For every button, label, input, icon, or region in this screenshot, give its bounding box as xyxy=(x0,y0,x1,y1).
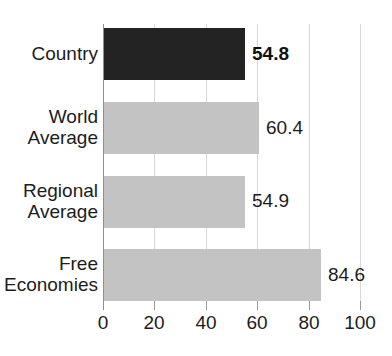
tick-label-100: 100 xyxy=(344,312,376,334)
tick-mark-100 xyxy=(360,301,361,310)
category-label-country: Country xyxy=(0,43,98,64)
gridline-100 xyxy=(360,24,361,301)
bar-world-average xyxy=(104,102,259,154)
tick-label-40: 40 xyxy=(195,312,216,334)
chart-title xyxy=(0,0,392,7)
value-label-world-average: 60.4 xyxy=(266,117,303,139)
bar-free-economies xyxy=(104,249,321,301)
tick-mark-60 xyxy=(257,301,258,310)
bar-regional-average xyxy=(104,176,245,228)
tick-label-60: 60 xyxy=(246,312,267,334)
tick-label-80: 80 xyxy=(298,312,319,334)
bar-chart: 0 20 40 60 80 100 Country World Average … xyxy=(0,0,392,356)
tick-mark-0 xyxy=(103,301,104,310)
tick-label-20: 20 xyxy=(143,312,164,334)
value-label-country: 54.8 xyxy=(252,43,289,65)
tick-mark-20 xyxy=(154,301,155,310)
tick-mark-80 xyxy=(309,301,310,310)
value-label-free-economies: 84.6 xyxy=(328,264,365,286)
tick-mark-40 xyxy=(206,301,207,310)
plot-area: 0 20 40 60 80 100 xyxy=(103,24,360,301)
value-label-regional-average: 54.9 xyxy=(252,190,289,212)
bar-country xyxy=(104,28,245,80)
category-label-regional-average: Regional Average xyxy=(0,180,98,222)
category-label-free-economies: Free Economies xyxy=(0,253,98,295)
category-label-world-average: World Average xyxy=(0,106,98,148)
tick-label-0: 0 xyxy=(98,312,109,334)
